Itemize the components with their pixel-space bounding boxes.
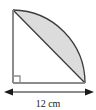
arrow-left-icon	[4, 89, 13, 96]
geometry-figure: 12 cm	[0, 0, 96, 110]
arrow-right-icon	[85, 89, 94, 96]
right-angle-icon	[13, 76, 20, 83]
figure-canvas: 12 cm	[0, 0, 96, 110]
dimension-label: 12 cm	[36, 98, 61, 109]
